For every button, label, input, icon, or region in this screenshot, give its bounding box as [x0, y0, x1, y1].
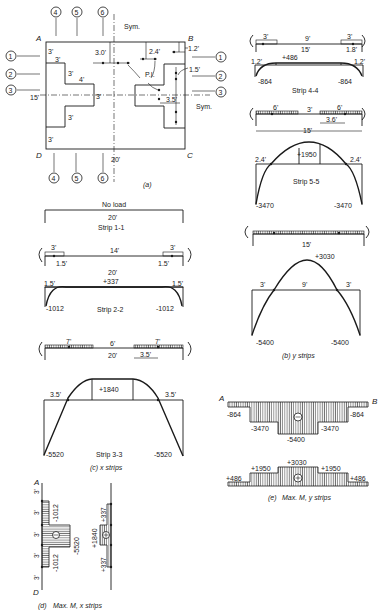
- svg-text:+486: +486: [282, 54, 298, 61]
- svg-text:-5400: -5400: [256, 339, 274, 346]
- svg-text:+3030: +3030: [287, 459, 307, 466]
- svg-text:3': 3': [260, 281, 265, 288]
- svg-text:-1012: -1012: [52, 554, 59, 572]
- caption-e: Max. M, y strips: [282, 494, 332, 502]
- svg-text:15': 15': [30, 94, 39, 101]
- svg-text:4: 4: [54, 9, 58, 16]
- svg-text:3': 3': [346, 281, 351, 288]
- strip-markers-right: 1 2 3: [192, 52, 226, 97]
- svg-text:3.5': 3.5': [140, 351, 151, 358]
- strip-markers-left: 1 2 3: [6, 51, 40, 95]
- svg-text:-3470: -3470: [321, 425, 339, 432]
- svg-text:3.0': 3.0': [95, 49, 106, 56]
- svg-text:+3030: +3030: [315, 253, 335, 260]
- caption-d: Max. M, x strips: [53, 602, 103, 610]
- svg-text:-5400: -5400: [331, 339, 349, 346]
- svg-text:2.4': 2.4': [255, 156, 266, 163]
- sym-label-top: Sym.: [124, 23, 140, 31]
- svg-text:-864: -864: [350, 411, 364, 418]
- svg-text:20': 20': [108, 352, 117, 359]
- corner-label-b: B: [188, 34, 194, 43]
- svg-text:Strip 1-1: Strip 1-1: [98, 224, 125, 232]
- svg-text:3': 3': [33, 553, 40, 558]
- svg-text:-1012: -1012: [156, 305, 174, 312]
- svg-text:+1950: +1950: [321, 465, 341, 472]
- svg-text:(e): (e): [268, 494, 277, 502]
- svg-text:5: 5: [75, 9, 79, 16]
- strip-4-4: 3' 9' 3' 15' 1.8' 1.2' 1.2' +486 -864 -8…: [250, 33, 365, 95]
- svg-text:6': 6': [337, 104, 342, 111]
- svg-text:+486: +486: [226, 475, 242, 482]
- svg-text:15': 15': [303, 127, 312, 134]
- sym-label-right: Sym.: [196, 103, 212, 111]
- svg-text:3': 3': [307, 106, 312, 113]
- svg-text:+1840: +1840: [91, 528, 98, 548]
- svg-text:-5520: -5520: [46, 451, 64, 458]
- svg-text:1.2': 1.2': [251, 58, 262, 65]
- svg-text:-1012: -1012: [52, 504, 59, 522]
- strip-3-3-loading: 7' 6' 7' 20' 3.5': [39, 338, 191, 360]
- svg-text:3: 3: [9, 87, 13, 94]
- svg-text:P.I.: P.I.: [145, 71, 155, 78]
- corner-label-d: D: [36, 151, 42, 160]
- svg-text:3.5': 3.5': [166, 96, 177, 103]
- svg-text:3': 3': [68, 70, 73, 77]
- svg-text:3.5': 3.5': [165, 391, 176, 398]
- svg-text:3': 3': [55, 56, 60, 63]
- svg-text:1: 1: [9, 53, 13, 60]
- svg-text:3': 3': [51, 244, 56, 251]
- svg-text:1.5': 1.5': [44, 280, 55, 287]
- svg-text:A: A: [218, 394, 224, 403]
- svg-text:3': 3': [170, 244, 175, 251]
- svg-text:3': 3': [33, 510, 40, 515]
- svg-text:Strip 4-4: Strip 4-4: [292, 87, 319, 95]
- strip-6-6: 15' +3030 3' 9' 3' -5400 -5400 (b) y str…: [245, 226, 369, 360]
- svg-text:3': 3': [96, 93, 101, 100]
- svg-text:2.4': 2.4': [149, 48, 160, 55]
- svg-text:1: 1: [219, 54, 223, 61]
- svg-text:+1950: +1950: [297, 151, 317, 158]
- svg-text:6': 6': [273, 104, 278, 111]
- svg-text:-3470: -3470: [251, 425, 269, 432]
- svg-text:+337: +337: [100, 557, 107, 572]
- svg-text:6: 6: [101, 175, 105, 182]
- svg-text:-1012: -1012: [46, 305, 64, 312]
- svg-text:-864: -864: [338, 78, 352, 85]
- svg-text:1.8': 1.8': [346, 46, 357, 53]
- svg-text:B: B: [372, 397, 378, 406]
- strip-1-1: No load 20' Strip 1-1: [45, 201, 183, 232]
- svg-text:-5520: -5520: [154, 451, 172, 458]
- svg-text:+1950: +1950: [251, 465, 271, 472]
- caption-c: (c) x strips: [90, 464, 123, 472]
- svg-text:3': 3': [33, 532, 40, 537]
- svg-text:6': 6': [110, 340, 115, 347]
- corner-label-c: C: [187, 151, 193, 160]
- svg-text:5: 5: [75, 175, 79, 182]
- svg-text:3': 3': [263, 33, 268, 40]
- svg-text:+337: +337: [103, 278, 119, 285]
- svg-text:3.5': 3.5': [50, 391, 61, 398]
- svg-text:2: 2: [9, 71, 13, 78]
- svg-text:4': 4': [79, 76, 84, 83]
- svg-text:+337: +337: [100, 507, 107, 522]
- plan-view: A B C D Sym. Sym. 1 2 3 1 2 3 4 5: [6, 7, 226, 189]
- svg-text:4: 4: [52, 175, 56, 182]
- svg-text:20': 20': [108, 214, 117, 221]
- strip-3-3-moment: 3.5' 3.5' +1840 -5520 Strip 3-3 -5520 (c…: [44, 379, 183, 472]
- svg-text:-3470: -3470: [334, 202, 352, 209]
- strip-5-5: 6' 3' 6' 3.6' 15' 2.4' 2.4' +1950 Strip …: [250, 104, 365, 209]
- svg-text:1.5': 1.5': [172, 280, 183, 287]
- svg-text:-5520: -5520: [73, 537, 80, 555]
- max-moment-x-strips: A D 3' 3' 3' 3' 3' -1012 -5520 -1012 +33…: [33, 478, 112, 610]
- svg-text:9': 9': [302, 281, 307, 288]
- svg-text:-864: -864: [227, 411, 241, 418]
- svg-text:-5400: -5400: [287, 436, 305, 443]
- svg-text:14': 14': [110, 247, 119, 254]
- svg-text:(d): (d): [38, 602, 47, 610]
- svg-text:20': 20': [111, 156, 120, 163]
- strip-markers-top: 4 5 6: [51, 7, 108, 36]
- svg-text:1.5': 1.5': [56, 260, 67, 267]
- right-column-strip: [135, 64, 185, 128]
- svg-text:1.5': 1.5': [158, 260, 169, 267]
- strip-2-2-loading: 3' 14' 3' 1.5' 1.5' 20': [39, 244, 191, 276]
